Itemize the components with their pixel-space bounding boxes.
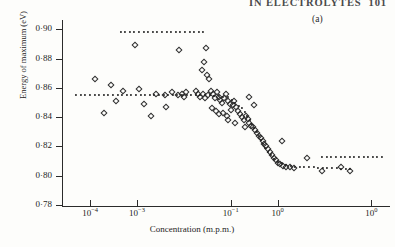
trend-dot	[353, 156, 355, 158]
trend-dot	[339, 156, 341, 158]
trend-dot	[75, 93, 77, 95]
trend-dot	[144, 93, 146, 95]
trend-dot	[193, 30, 195, 32]
data-point-diamond	[279, 137, 286, 144]
figure-panel-a: IN ELECTROLYTES101 (a) Energy of maximum…	[0, 0, 395, 247]
y-tick-mark	[56, 88, 62, 89]
y-tick-mark	[56, 205, 62, 206]
x-tick-mark	[371, 200, 372, 206]
data-point-diamond	[206, 76, 213, 83]
trend-dot	[202, 30, 204, 32]
trend-dot	[133, 30, 135, 32]
trend-dot	[303, 166, 305, 168]
data-point-diamond	[176, 46, 183, 53]
y-tick-label: 0·88	[12, 53, 52, 63]
trend-dot	[107, 93, 109, 95]
trend-dot	[112, 93, 114, 95]
y-tick-label: 0·78	[12, 199, 52, 209]
y-tick-mark	[56, 59, 62, 60]
data-point-diamond	[303, 155, 310, 162]
data-point-diamond	[201, 58, 208, 65]
trend-dot	[139, 93, 141, 95]
trend-dot	[166, 30, 168, 32]
x-tick-label: 10−3	[129, 208, 145, 218]
data-point-diamond	[162, 103, 169, 110]
trend-dot	[331, 167, 333, 169]
data-point-diamond	[101, 109, 108, 116]
y-tick-label: 0·86	[12, 82, 52, 92]
y-tick-mark	[56, 29, 62, 30]
trend-dot	[170, 30, 172, 32]
trend-dot	[98, 93, 100, 95]
trend-dot	[130, 93, 132, 95]
trend-dot	[179, 30, 181, 32]
trend-dot	[299, 166, 301, 168]
page-number: 101	[369, 0, 387, 7]
trend-dot	[129, 30, 131, 32]
trend-dot	[372, 156, 374, 158]
trend-dot	[376, 156, 378, 158]
data-point-diamond	[245, 93, 252, 100]
trend-dot	[80, 93, 82, 95]
x-axis-title: Concentration (m.p.m.)	[62, 224, 322, 234]
y-tick-mark	[56, 176, 62, 177]
trend-dot	[184, 30, 186, 32]
trend-dot	[156, 30, 158, 32]
trend-dot	[326, 156, 328, 158]
trend-dot	[335, 156, 337, 158]
y-tick-mark	[56, 146, 62, 147]
data-point-diamond	[147, 112, 154, 119]
data-point-diamond	[136, 86, 143, 93]
trend-dot	[89, 93, 91, 95]
trend-dot	[124, 30, 126, 32]
x-tick-label: 100	[365, 208, 377, 218]
trend-dot	[308, 166, 310, 168]
trend-dot	[126, 93, 128, 95]
data-point-diamond	[241, 124, 248, 131]
trend-dot	[326, 167, 328, 169]
trend-dot	[121, 93, 123, 95]
trend-dot	[172, 94, 174, 96]
trend-dot	[152, 30, 154, 32]
data-point-diamond	[131, 42, 138, 49]
trend-dot	[198, 30, 200, 32]
x-tick-label: 10−1	[223, 208, 239, 218]
trend-dot	[147, 30, 149, 32]
trend-dot	[158, 93, 160, 95]
y-tick-mark	[56, 117, 62, 118]
data-point-diamond	[108, 81, 115, 88]
trend-dot	[143, 30, 145, 32]
trend-dot	[336, 167, 338, 169]
trend-dot	[120, 30, 122, 32]
trend-dot	[138, 30, 140, 32]
x-tick-label: 10−4	[82, 208, 98, 218]
running-header-title: IN ELECTROLYTES	[249, 0, 362, 7]
panel-label: (a)	[312, 14, 323, 24]
trend-dot	[349, 156, 351, 158]
trend-dot	[149, 93, 151, 95]
data-point-diamond	[251, 102, 258, 109]
trend-dot	[189, 30, 191, 32]
data-point-diamond	[232, 119, 239, 126]
trend-dot	[313, 166, 315, 168]
x-tick-mark	[278, 200, 279, 206]
trend-dot	[135, 93, 137, 95]
trend-dot	[358, 156, 360, 158]
trend-dot	[93, 93, 95, 95]
trend-dot	[167, 93, 169, 95]
x-tick-label: 100	[271, 208, 283, 218]
trend-dot	[84, 93, 86, 95]
y-tick-label: 0·90	[12, 23, 52, 33]
y-tick-label: 0·80	[12, 170, 52, 180]
y-tick-label: 0·84	[12, 111, 52, 121]
trend-dot	[190, 94, 192, 96]
trend-dot	[367, 156, 369, 158]
trend-dot	[116, 93, 118, 95]
trend-dot	[175, 30, 177, 32]
trend-dot	[103, 93, 105, 95]
x-axis-line	[62, 206, 390, 207]
trend-dot	[330, 156, 332, 158]
trend-dot	[185, 94, 187, 96]
data-point-diamond	[140, 100, 147, 107]
data-point-diamond	[319, 168, 326, 175]
